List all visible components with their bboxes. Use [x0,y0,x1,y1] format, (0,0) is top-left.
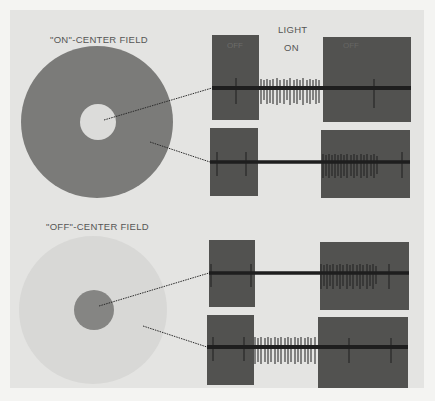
diagram-graphics: OFF OFF [0,0,435,401]
row4-burst [255,337,315,364]
off-center-center [74,290,114,330]
row4-off-after [318,317,408,388]
on-center-field [21,46,173,198]
svg-text:OFF: OFF [227,41,243,50]
off-center-field [19,236,167,384]
row4-off-before [207,315,254,385]
row1-burst [261,78,319,105]
row1-off-after [323,37,411,122]
on-center-center [80,104,116,140]
row2-off-after [321,130,410,198]
svg-text:OFF: OFF [343,41,359,50]
